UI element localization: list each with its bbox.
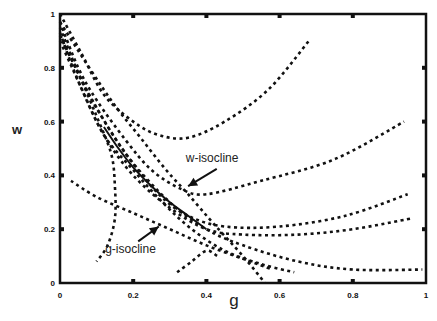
x-tick-mark xyxy=(204,279,208,283)
x-tick-mark xyxy=(278,279,282,283)
y-tick-mark-right xyxy=(422,66,426,70)
y-tick-mark xyxy=(60,120,64,124)
x-tick-label: 0.8 xyxy=(347,291,359,300)
arrowhead-icon xyxy=(149,227,159,236)
y-tick-mark xyxy=(60,66,64,70)
curve-trajectory-2 xyxy=(60,22,404,195)
x-tick-mark-top xyxy=(351,14,355,18)
y-tick-label: 0.6 xyxy=(44,118,56,127)
y-tick-mark xyxy=(60,227,64,231)
x-tick-mark-top xyxy=(131,14,135,18)
y-tick-label: 1 xyxy=(51,10,56,19)
x-tick-label: 0.6 xyxy=(274,291,286,300)
y-tick-label: 0.4 xyxy=(44,171,56,180)
x-tick-label: 0.4 xyxy=(201,291,213,300)
curve-trajectory-3 xyxy=(60,27,408,227)
x-tick-label: 0 xyxy=(58,291,63,300)
y-tick-label: 0.2 xyxy=(44,225,56,234)
y-tick-mark-right xyxy=(422,173,426,177)
x-tick-mark xyxy=(131,279,135,283)
y-tick-mark xyxy=(60,173,64,177)
x-tick-mark-top xyxy=(204,14,208,18)
x-tick-label: 0.2 xyxy=(128,291,140,300)
phase-plane-chart: 00.20.40.60.8100.20.40.60.81 g w w-isocl… xyxy=(0,0,437,321)
y-tick-mark-right xyxy=(422,120,426,124)
curve-trajectory-6 xyxy=(60,41,294,272)
x-tick-mark-top xyxy=(278,14,282,18)
y-axis-label: w xyxy=(11,122,23,137)
y-tick-label: 0 xyxy=(51,279,56,288)
curve-trajectory-8 xyxy=(177,251,217,273)
annotation-label: w-isocline xyxy=(185,151,239,165)
y-tick-mark-right xyxy=(422,227,426,231)
annotation-label: g-isocline xyxy=(105,242,156,256)
curve-trajectory-7 xyxy=(60,36,116,262)
x-axis-label: g xyxy=(229,291,238,310)
curve-separatrix xyxy=(104,127,206,229)
x-tick-mark xyxy=(351,279,355,283)
y-tick-label: 0.8 xyxy=(44,64,56,73)
x-tick-label: 1 xyxy=(424,291,429,300)
